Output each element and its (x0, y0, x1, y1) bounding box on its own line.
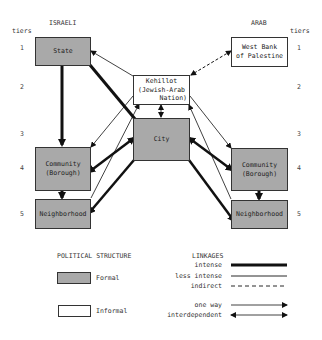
legend-informal-label: Informal (96, 307, 127, 315)
legend-formal-swatch (57, 272, 91, 284)
node-kehillot-line2: (Jewish-Arab (138, 86, 185, 95)
node-kehillot-line1: Kehillot (146, 77, 177, 86)
legend-interdependent-label: interdependent (167, 311, 222, 319)
legend-linkages-title: LINKAGES (192, 252, 223, 260)
node-neighborhood-left: Neighborhood (35, 199, 91, 229)
link-neighborhood-right-kehillot (189, 105, 231, 199)
legend-informal-swatch (58, 305, 91, 317)
node-west-bank-line1: West Bank (242, 43, 277, 52)
node-community-left-line2: (Borough) (45, 169, 80, 178)
node-state: State (35, 37, 91, 66)
node-community-right-line2: (Borough) (242, 170, 277, 179)
node-neighborhood-left-label: Neighborhood (40, 210, 87, 219)
node-community-left: Community (Borough) (35, 147, 91, 191)
node-community-right: Community (Borough) (231, 148, 288, 191)
node-city: City (133, 118, 190, 161)
node-neighborhood-right-label: Neighborhood (236, 210, 283, 219)
legend-less-intense-label: less intense (175, 272, 222, 280)
legend-structure-title: POLITICAL STRUCTURE (57, 252, 131, 260)
node-kehillot-line3: Nation) (160, 94, 189, 103)
legend-intense-label: intense (195, 261, 222, 269)
legend-indirect-label: indirect (191, 282, 222, 290)
node-neighborhood-right: Neighborhood (231, 200, 288, 229)
node-west-bank-line2: of Palestine (236, 52, 283, 61)
legend-one-way-label: one way (195, 301, 222, 309)
link-westbank-kehillot (191, 51, 231, 75)
link-kehillot-community-left (91, 96, 133, 147)
node-west-bank: West Bank of Palestine (231, 37, 288, 67)
node-state-label: State (53, 47, 73, 56)
node-community-left-line1: Community (45, 160, 80, 169)
node-community-right-line1: Community (242, 161, 277, 170)
node-kehillot: Kehillot (Jewish-Arab Nation) (133, 75, 190, 105)
legend-formal-label: Formal (96, 274, 119, 282)
node-city-label: City (154, 135, 170, 144)
link-kehillot-community-right (190, 96, 231, 148)
